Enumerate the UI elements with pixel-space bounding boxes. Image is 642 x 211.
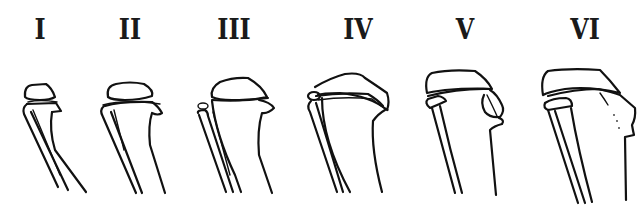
- stage-3-drawing: [198, 78, 274, 193]
- stage-6-drawing: [542, 69, 635, 203]
- bone-drawings: [0, 0, 642, 211]
- bone-development-figure: I II III IV V VI: [0, 0, 642, 211]
- stage-5-drawing: [426, 70, 503, 195]
- stage-4-drawing: [308, 74, 389, 193]
- stage-2-drawing: [101, 83, 165, 194]
- stage-1-drawing: [23, 84, 86, 192]
